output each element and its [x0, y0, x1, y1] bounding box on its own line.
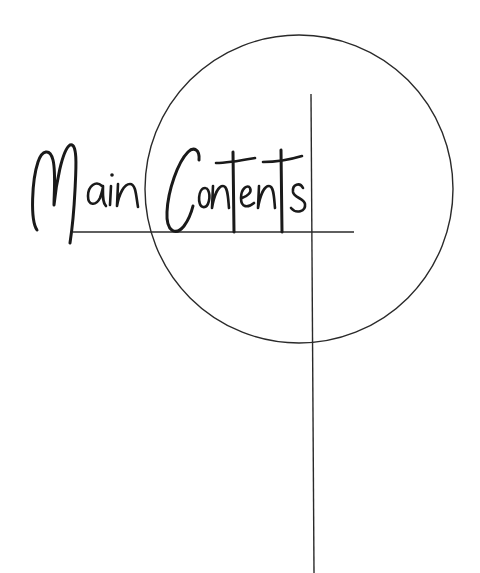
- page-title: Main Contents: [30, 141, 320, 241]
- decorative-graphic: [0, 0, 480, 573]
